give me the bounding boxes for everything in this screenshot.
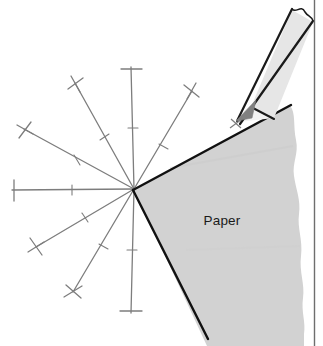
- figure-root: Paper: [0, 0, 323, 346]
- figure-canvas: Paper: [0, 0, 323, 346]
- paper-label: Paper: [203, 213, 240, 228]
